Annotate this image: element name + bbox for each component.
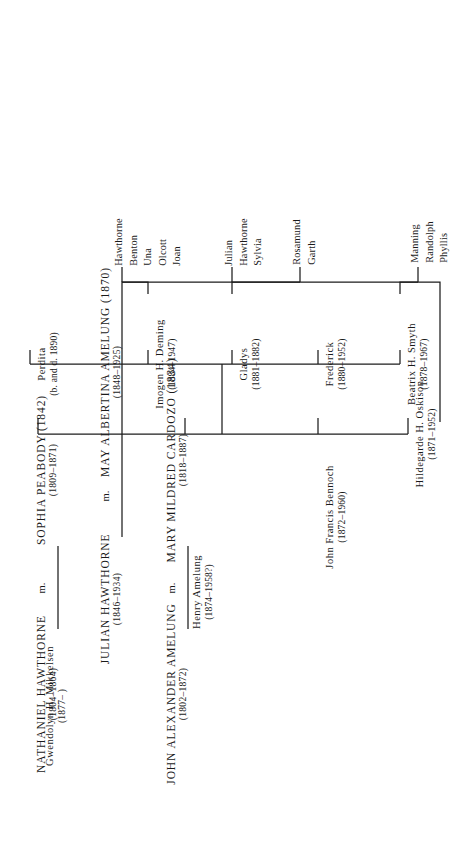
marriage-mark-c: m. <box>100 490 111 501</box>
child-name: Randolph <box>423 221 438 263</box>
person-john-alexander-amelung: JOHN ALEXANDER AMELUNG (1802–1872) <box>164 603 190 784</box>
leg-gladys-children <box>232 282 300 294</box>
connector-lines <box>0 0 460 842</box>
marriage-mark-a: m. <box>36 582 47 593</box>
child-name: Joan <box>170 218 185 266</box>
person-sophia-peabody: SOPHIA PEABODY (1842) (1809–1871) <box>34 395 60 545</box>
person-name: SOPHIA PEABODY (1842) <box>34 395 48 545</box>
child-name: Olcott <box>156 218 171 266</box>
child-name: Phyllis <box>437 221 452 263</box>
person-dates: (1846–1934) <box>112 534 124 665</box>
person-name: Gladys <box>238 338 251 389</box>
person-dates: (1818–1887) <box>178 358 190 563</box>
person-dates: (1880–1952) <box>337 338 349 389</box>
child-name: Benton <box>127 218 142 266</box>
person-dates: (1802–1872) <box>178 603 190 784</box>
person-name: Frederick <box>324 338 337 389</box>
person-name: Beatrix H. Smyth <box>406 323 419 405</box>
person-name: John Francis Bennoch <box>324 465 337 568</box>
genealogy-chart: NATHANIEL HAWTHORNE (1804–1864) m. SOPHI… <box>0 0 460 842</box>
person-julian-hawthorne: JULIAN HAWTHORNE (1846–1934) <box>98 534 124 665</box>
leg-imogen-children <box>122 282 148 294</box>
child-name: Sylvia <box>251 218 266 266</box>
person-perdita: Perdita (b. and d. 1890) <box>36 332 60 396</box>
person-may-albertina-amelung: MAY ALBERTINA AMELUNG (1870) (1848–1925) <box>98 267 124 477</box>
person-dates: (1809–1871) <box>48 395 60 545</box>
person-name: Henry Amelung <box>191 555 204 629</box>
person-name: JOHN ALEXANDER AMELUNG <box>164 603 178 784</box>
child-name: Garth <box>305 219 320 265</box>
child-name: Una <box>141 218 156 266</box>
person-name: Gwendolyn H. Mikkelsen <box>44 646 57 766</box>
person-dates: (b. and d. 1890) <box>49 332 61 396</box>
child-name: Rosamund <box>290 219 305 265</box>
leg-beatrix-children <box>400 282 418 294</box>
person-gladys: Gladys (1881–1882) <box>238 338 262 389</box>
person-dates: (1872–1960) <box>337 465 349 568</box>
children-group-hawthorne: Hawthorne Benton Una Olcott Joan <box>112 218 185 266</box>
person-frederick: Frederick (1880–1952) <box>324 338 348 389</box>
child-name: Hawthorne <box>237 218 252 266</box>
marriage-mark-b: m. <box>166 582 177 593</box>
person-beatrix-smyth: Beatrix H. Smyth (1878–1967) <box>406 323 430 405</box>
person-imogen-deming: Imogen H. Deming (1884–1947) <box>154 319 178 408</box>
person-dates: (1884–1947) <box>167 319 179 408</box>
person-name: Imogen H. Deming <box>154 319 167 408</box>
person-gwendolyn-mikkelsen: Gwendolyn H. Mikkelsen (1877– ) <box>44 646 68 766</box>
person-dates: (1877– ) <box>57 646 69 766</box>
person-name: MAY ALBERTINA AMELUNG (1870) <box>98 267 112 477</box>
person-dates: (1874–1958?) <box>204 555 216 629</box>
person-henry-amelung: Henry Amelung (1874–1958?) <box>191 555 215 629</box>
child-name: Hawthorne <box>112 218 127 266</box>
child-name: Manning <box>408 221 423 263</box>
children-group-rosamund: Rosamund Garth <box>290 219 319 265</box>
person-dates: (1848–1925) <box>112 267 124 477</box>
person-john-francis-bennoch: John Francis Bennoch (1872–1960) <box>324 465 348 568</box>
children-group-manning: Manning Randolph Phyllis <box>408 221 452 263</box>
person-name: JULIAN HAWTHORNE <box>98 534 112 665</box>
person-dates: (1878–1967) <box>419 323 431 405</box>
person-name: Perdita <box>36 332 49 396</box>
child-name: Julian <box>222 218 237 266</box>
children-group-julian: Julian Hawthorne Sylvia <box>222 218 266 266</box>
person-dates: (1881–1882) <box>251 338 263 389</box>
